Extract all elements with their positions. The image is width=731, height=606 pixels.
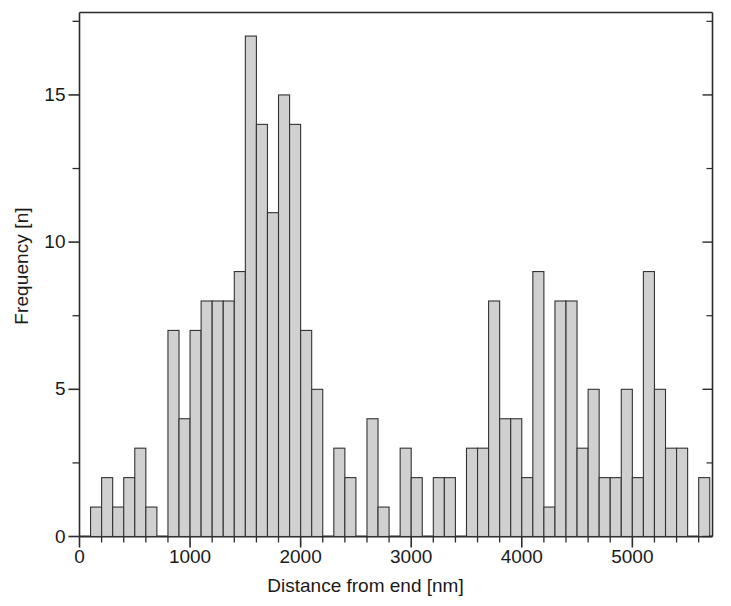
bar-series [91,36,710,536]
histogram-bar [577,448,588,536]
histogram-bar [102,478,113,537]
histogram-bar [677,448,688,536]
histogram-bar [256,124,267,536]
histogram-bar [190,330,201,536]
histogram-bar [621,389,632,536]
histogram-bar [91,507,102,536]
histogram-bar [632,478,643,537]
histogram-bar [135,448,146,536]
histogram-bar [201,301,212,537]
histogram-bar [124,478,135,537]
histogram-bar [334,448,345,536]
histogram-bar [666,448,677,536]
histogram-bar [168,330,179,536]
y-tick-label: 0 [22,526,66,548]
histogram-bar [312,389,323,536]
tick-marks [69,21,713,547]
histogram-bar [699,478,710,537]
histogram-bar [478,448,489,536]
histogram-bar [643,272,654,537]
histogram-bar [544,507,555,536]
x-tick-label: 0 [74,546,85,568]
histogram-bar [522,478,533,537]
histogram-bar [533,272,544,537]
histogram-bar [212,301,223,537]
x-tick-label: 5000 [611,546,653,568]
histogram-bar [146,507,157,536]
y-axis-label: Frequency [n] [11,156,33,376]
y-tick-label: 15 [22,84,66,106]
histogram-bar [566,301,577,537]
histogram-bar [267,213,278,537]
histogram-bar [113,507,124,536]
x-axis-label: Distance from end [nm] [0,575,731,597]
histogram-bar [489,301,500,537]
histogram-figure: Frequency [n] Distance from end [nm] 051… [0,0,731,606]
plot-area [0,0,731,606]
histogram-bar [654,389,665,536]
histogram-bar [378,507,389,536]
histogram-bar [555,301,566,537]
histogram-bar [610,478,621,537]
histogram-bar [433,478,444,537]
y-tick-label: 5 [22,378,66,400]
histogram-bar [279,95,290,537]
histogram-bar [179,419,190,537]
y-tick-label: 10 [22,231,66,253]
histogram-bar [345,478,356,537]
histogram-bar [511,419,522,537]
x-tick-label: 3000 [390,546,432,568]
x-tick-label: 1000 [169,546,211,568]
histogram-bar [466,448,477,536]
x-tick-label: 4000 [501,546,543,568]
histogram-bar [400,448,411,536]
x-tick-label: 2000 [279,546,321,568]
histogram-bar [411,478,422,537]
histogram-bar [234,272,245,537]
histogram-bar [245,36,256,536]
histogram-bar [599,478,610,537]
histogram-bar [301,330,312,536]
histogram-bar [588,389,599,536]
histogram-bar [290,124,301,536]
histogram-bar [500,419,511,537]
histogram-bar [367,419,378,537]
histogram-bar [223,301,234,537]
histogram-bar [444,478,455,537]
